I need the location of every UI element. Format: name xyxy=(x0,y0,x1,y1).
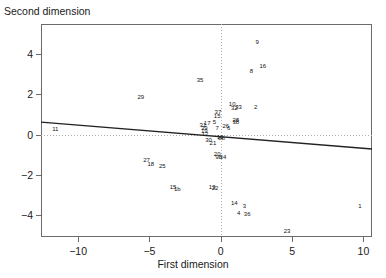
x-axis-title: First dimension xyxy=(0,258,386,270)
fit-line-segment xyxy=(41,122,372,149)
regression-line xyxy=(0,0,386,278)
scatter-plot: Second dimension −10−50510−4−2024 112927… xyxy=(0,0,386,278)
